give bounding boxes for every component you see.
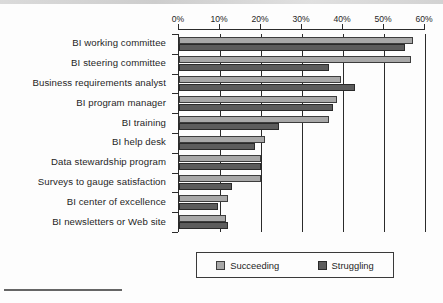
x-tick-label-0: 0% <box>172 14 184 24</box>
x-tick-4 <box>342 24 343 30</box>
x-tick-0 <box>178 24 179 30</box>
bar-succeeding-9 <box>179 215 226 222</box>
y-tick-end <box>172 232 178 233</box>
bar-struggling-7 <box>179 183 232 190</box>
bar-succeeding-6 <box>179 155 261 162</box>
category-label-5: BI help desk <box>112 137 166 147</box>
x-tick-6 <box>424 24 425 30</box>
category-label-8: BI center of excellence <box>67 197 166 207</box>
struggling-swatch <box>318 261 327 270</box>
category-label-6: Data stewardship program <box>51 157 166 167</box>
bar-struggling-2 <box>179 84 355 91</box>
x-tick-2 <box>260 24 261 30</box>
x-tick-label-1: 10% <box>210 14 227 24</box>
x-tick-3 <box>301 24 302 30</box>
legend-label-succeeding: Succeeding <box>230 260 279 271</box>
category-label-2: Business requirements analyst <box>32 78 166 88</box>
bar-succeeding-3 <box>179 96 337 103</box>
chart-legend: Succeeding Struggling <box>196 252 394 278</box>
succeeding-swatch <box>216 261 225 270</box>
x-tick-label-6: 60% <box>415 14 432 24</box>
x-tick-5 <box>383 24 384 30</box>
horizontal-bar-chart: 0%10%20%30%40%50%60% BI working committe… <box>0 0 443 303</box>
legend-label-struggling: Struggling <box>332 260 374 271</box>
gridline-50% <box>384 34 385 232</box>
chart-page: 0%10%20%30%40%50%60% BI working committe… <box>0 0 443 303</box>
bar-struggling-1 <box>179 64 329 71</box>
x-tick-label-4: 40% <box>333 14 350 24</box>
bar-succeeding-0 <box>179 37 413 44</box>
bar-succeeding-1 <box>179 56 411 63</box>
category-label-9: BI newsletters or Web site <box>52 217 166 227</box>
x-tick-label-2: 20% <box>251 14 268 24</box>
x-tick-1 <box>219 24 220 30</box>
bar-struggling-8 <box>179 203 218 210</box>
bar-succeeding-4 <box>179 116 329 123</box>
category-label-4: BI training <box>122 118 166 128</box>
bar-succeeding-5 <box>179 136 265 143</box>
category-label-0: BI working committee <box>72 38 166 48</box>
bar-struggling-6 <box>179 163 261 170</box>
category-label-3: BI program manager <box>76 98 166 108</box>
bar-succeeding-2 <box>179 76 341 83</box>
legend-item-succeeding: Succeeding <box>216 260 279 271</box>
bar-succeeding-7 <box>179 175 261 182</box>
legend-item-struggling: Struggling <box>318 260 374 271</box>
plot-area <box>178 34 426 232</box>
category-label-7: Surveys to gauge satisfaction <box>38 177 166 187</box>
bar-struggling-0 <box>179 44 405 51</box>
category-labels: BI working committeeBI steering committe… <box>0 34 172 232</box>
bar-succeeding-8 <box>179 195 228 202</box>
bar-struggling-9 <box>179 222 228 229</box>
gridline-40% <box>343 34 344 232</box>
x-tick-label-3: 30% <box>292 14 309 24</box>
bar-struggling-3 <box>179 104 333 111</box>
bar-struggling-5 <box>179 143 255 150</box>
bar-struggling-4 <box>179 123 279 130</box>
x-tick-label-5: 50% <box>374 14 391 24</box>
category-label-1: BI steering committee <box>71 58 166 68</box>
